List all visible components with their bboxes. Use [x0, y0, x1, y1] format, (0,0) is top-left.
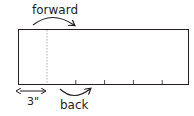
paper-strip: [19, 30, 189, 85]
back-arrow-icon: [60, 89, 90, 96]
forward-label: forward: [32, 3, 78, 17]
back-label: back: [60, 98, 89, 112]
folding-diagram: forward 3" back: [0, 0, 194, 116]
measure-label: 3": [27, 95, 39, 108]
forward-arrow-icon: [33, 18, 74, 26]
